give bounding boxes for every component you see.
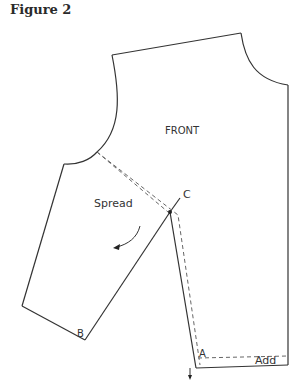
front-label: FRONT [165,125,200,136]
point-c-label: C [183,188,191,201]
spread-arrow-icon [117,226,140,247]
spread-label: Spread [94,197,133,210]
side-seam-line [22,164,64,306]
point-a-label: A [199,348,206,359]
down-arrowhead-icon [188,375,192,380]
shoulder-line [112,33,241,55]
pattern-diagram: FRONT Spread C B A Add [0,0,298,386]
original-slash-dashed-line-2 [97,152,200,365]
point-b-label: B [77,328,84,339]
armhole-curve [97,55,117,152]
neckline-curve [241,33,288,85]
armhole-lower-curve [64,152,97,164]
spread-arrowhead-icon [113,244,120,250]
rotated-slash-edge [85,212,170,340]
add-label: Add [255,354,276,367]
slash-line-c-to-a [170,212,196,368]
pivot-point-dot [168,210,172,214]
rotated-hem-line [22,306,85,340]
